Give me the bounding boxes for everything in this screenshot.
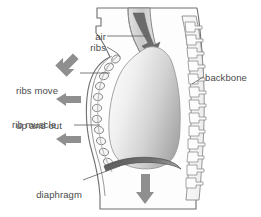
breathing-diagram: air ribs ribs move up and out rib muscle…	[0, 0, 261, 217]
label-diaphragm-flattens: diaphragm flattens	[18, 166, 82, 217]
label-air: air	[72, 31, 106, 43]
label-ribs: ribs	[72, 42, 106, 54]
label-rib-muscle: rib muscle	[12, 119, 74, 131]
label-diaphragm-line1: diaphragm	[18, 189, 82, 201]
label-ribs-move: ribs move up and out	[16, 62, 82, 154]
label-backbone: backbone	[205, 72, 261, 84]
label-ribs-move-line1: ribs move	[16, 85, 82, 97]
